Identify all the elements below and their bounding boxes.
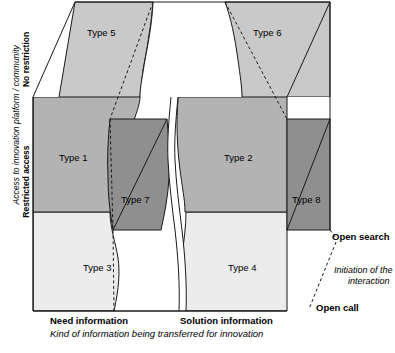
z-axis-title-line1: Initiation of the bbox=[334, 265, 393, 275]
wave-gap-top bbox=[140, 2, 242, 97]
diagram-canvas: Type 1 Type 2 Type 3 Type 4 Type 5 Type … bbox=[0, 0, 395, 353]
cell-label-type1: Type 1 bbox=[59, 153, 88, 164]
y-axis-title: Access to innovation platform / communit… bbox=[11, 45, 21, 204]
cell-label-type7: Type 7 bbox=[121, 195, 150, 206]
cell-label-type8: Type 8 bbox=[292, 195, 321, 206]
z-axis-title-line2: interaction bbox=[348, 276, 390, 286]
cell-label-type6: Type 6 bbox=[253, 28, 282, 39]
cube-diagram-svg bbox=[0, 0, 395, 353]
y-axis-low-label: No restriction bbox=[21, 32, 31, 143]
x-axis-right-label: Solution information bbox=[180, 316, 273, 327]
cell-label-type5: Type 5 bbox=[87, 28, 116, 39]
x-axis-left-label: Need information bbox=[50, 316, 128, 327]
cell-type7-shape bbox=[108, 119, 170, 230]
y-axis-high-label: Restricted access bbox=[21, 145, 31, 217]
y-axis-label-group: Access to innovation platform / communit… bbox=[12, 15, 32, 235]
z-axis-front-label: Open call bbox=[316, 303, 359, 314]
cell-type5-shape bbox=[59, 2, 153, 97]
cell-label-type2: Type 2 bbox=[224, 153, 253, 164]
back-layer-open-search bbox=[33, 2, 330, 97]
x-axis-title: Kind of information being transferred fo… bbox=[50, 329, 263, 340]
cell-label-type3: Type 3 bbox=[83, 263, 112, 274]
cell-label-type4: Type 4 bbox=[228, 263, 257, 274]
z-axis-back-label: Open search bbox=[332, 232, 390, 243]
